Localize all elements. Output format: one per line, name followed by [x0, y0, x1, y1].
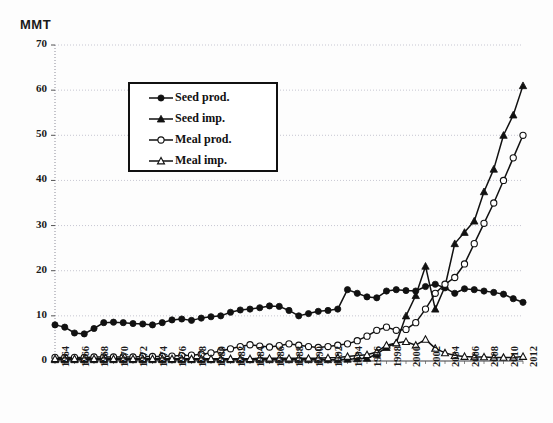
legend-label: Seed imp.: [175, 111, 225, 126]
legend-item-3: Meal imp.: [148, 153, 227, 168]
x-tick-label: 1986: [275, 346, 286, 367]
x-tick-label: 2010: [509, 346, 520, 367]
x-tick-label: 2000: [411, 346, 422, 367]
x-tick-label: 1972: [138, 346, 149, 367]
x-tick-label: 1974: [158, 346, 169, 367]
legend-label: Seed prod.: [175, 90, 229, 105]
legend-marker-open-triangle: [148, 155, 174, 167]
x-tick-label: 1968: [99, 346, 110, 367]
x-tick-label: 1964: [60, 346, 71, 367]
x-tick-label: 2002: [431, 346, 442, 367]
y-tick-label: 50: [21, 127, 47, 139]
legend-item-2: Meal prod.: [148, 132, 231, 147]
y-tick-label: 70: [21, 37, 47, 49]
x-tick-label: 1980: [216, 346, 227, 367]
legend-label: Meal imp.: [175, 153, 227, 168]
legend-item-1: Seed imp.: [148, 111, 225, 126]
x-tick-label: 1996: [372, 346, 383, 367]
x-tick-label: 1976: [177, 346, 188, 367]
series-0: [52, 281, 526, 337]
x-tick-label: 1988: [294, 346, 305, 367]
chart-legend: Seed prod.Seed imp.Meal prod.Meal imp.: [128, 82, 278, 172]
legend-label: Meal prod.: [175, 132, 231, 147]
legend-marker-filled-triangle: [148, 113, 174, 125]
x-tick-label: 2004: [450, 346, 461, 367]
x-tick-label: 1966: [80, 346, 91, 367]
legend-item-0: Seed prod.: [148, 90, 229, 105]
chart-figure: MMT 010203040506070 19641966196819701972…: [0, 0, 553, 423]
x-tick-label: 1990: [314, 346, 325, 367]
legend-marker-filled-circle: [148, 92, 174, 104]
x-tick-label: 1992: [333, 346, 344, 367]
y-tick-label: 10: [21, 308, 47, 320]
x-tick-label: 1978: [197, 346, 208, 367]
x-tick-label: 1998: [392, 346, 403, 367]
x-tick-label: 2008: [489, 346, 500, 367]
y-tick-label: 60: [21, 82, 47, 94]
y-tick-label: 30: [21, 218, 47, 230]
x-tick-label: 1984: [255, 346, 266, 367]
x-tick-label: 1970: [119, 346, 130, 367]
y-tick-label: 40: [21, 172, 47, 184]
y-tick-label: 20: [21, 263, 47, 275]
x-tick-label: 1982: [236, 346, 247, 367]
x-tick-label: 2012: [528, 346, 539, 367]
x-tick-label: 2006: [470, 346, 481, 367]
legend-marker-open-circle: [148, 134, 174, 146]
y-tick-label: 0: [21, 353, 47, 365]
x-tick-label: 1994: [353, 346, 364, 367]
